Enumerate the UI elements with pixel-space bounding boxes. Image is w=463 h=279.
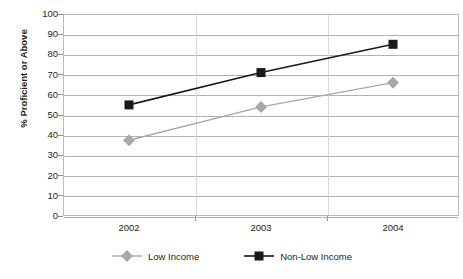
y-axis-tick-label: 0 — [18, 211, 58, 221]
y-axis-tick-label: 70 — [18, 70, 58, 80]
x-axis-tick-label: 2003 — [221, 222, 301, 233]
y-axis-tick-label: 100 — [18, 9, 58, 19]
gridline — [64, 156, 458, 157]
x-axis-tick-label: 2004 — [353, 222, 433, 233]
gridline — [64, 95, 458, 96]
plot-area — [63, 14, 459, 216]
chart-title — [0, 0, 463, 1]
category-divider — [196, 15, 197, 215]
gridline — [64, 116, 458, 117]
legend-item[interactable]: Low Income — [111, 249, 199, 263]
chart-legend: Low IncomeNon-Low Income — [0, 249, 463, 263]
gridline — [64, 217, 458, 218]
square-marker-icon — [255, 252, 264, 261]
gridline — [64, 176, 458, 177]
y-axis-tick-label: 60 — [18, 90, 58, 100]
diamond-marker-icon — [121, 250, 133, 262]
x-axis-tick-label: 2002 — [89, 222, 169, 233]
square-marker-icon — [243, 249, 275, 263]
legend-label: Low Income — [148, 251, 199, 262]
gridline — [64, 35, 458, 36]
category-divider — [328, 15, 329, 215]
y-axis-tick-label: 30 — [18, 150, 58, 160]
gridline — [64, 55, 458, 56]
chart-container: % Proficient or Above 100908070605040302… — [0, 0, 463, 279]
legend-item[interactable]: Non-Low Income — [243, 249, 352, 263]
diamond-marker-icon — [111, 249, 143, 263]
gridline — [64, 75, 458, 76]
legend-label: Non-Low Income — [280, 251, 352, 262]
y-axis-tick-label: 80 — [18, 49, 58, 59]
y-axis-tick-label: 20 — [18, 171, 58, 181]
y-axis-tick-label: 10 — [18, 191, 58, 201]
y-axis-tick-label: 50 — [18, 110, 58, 120]
y-axis-tick-label: 90 — [18, 29, 58, 39]
gridline — [64, 136, 458, 137]
y-axis-tick-label: 40 — [18, 130, 58, 140]
gridline — [64, 196, 458, 197]
